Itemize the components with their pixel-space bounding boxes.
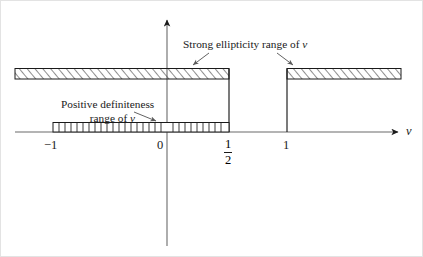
x-axis-label: ν (406, 125, 412, 138)
strong-ellipticity-arrow-left (193, 53, 209, 65)
tick-label-zero: 0 (157, 139, 163, 152)
tick-label-one: 1 (283, 139, 289, 152)
figure-container: ν −1 0 1 2 1 Strong ellipticity range of… (0, 0, 423, 257)
fraction-denominator: 2 (221, 154, 235, 167)
annotation-positive-definiteness: Positive definiteness range of ν (61, 97, 135, 125)
strong-ellipticity-band-right (287, 69, 401, 80)
annotation-positive-definiteness-variable: ν (130, 112, 135, 124)
annotation-strong-ellipticity: Strong ellipticity range of ν (183, 37, 307, 51)
annotation-strong-ellipticity-variable: ν (302, 38, 307, 50)
strong-ellipticity-band-left (15, 69, 229, 80)
fraction-numerator: 1 (221, 138, 235, 151)
strong-ellipticity-arrow-right (277, 53, 293, 65)
tick-label-minus-one: −1 (44, 139, 57, 152)
positive-definiteness-arrow (134, 112, 156, 121)
annotation-positive-definiteness-line2: range of (90, 112, 127, 124)
tick-label-one-half: 1 2 (221, 138, 235, 167)
annotation-strong-ellipticity-text: Strong ellipticity range of (183, 38, 299, 50)
annotation-positive-definiteness-line1: Positive definiteness (61, 98, 154, 110)
